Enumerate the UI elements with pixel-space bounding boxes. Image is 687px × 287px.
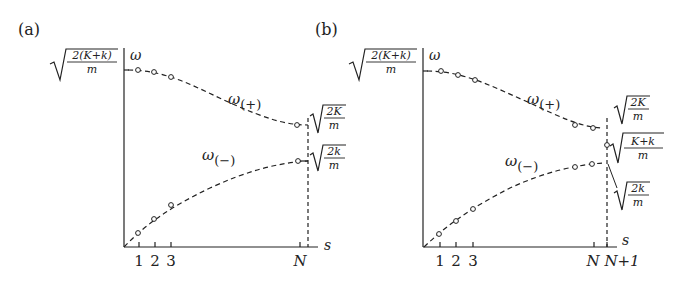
panel-b-label: (b) — [315, 20, 338, 39]
panel-b-right-num-2: K+k — [630, 135, 655, 148]
panel-a-upper-branch — [128, 70, 308, 125]
panel-a-right-num-2: 2k — [326, 145, 341, 158]
panel-a-right-den-1: m — [329, 119, 339, 132]
panel-a-right-den-2: m — [329, 159, 339, 172]
panel-a-y-top-num: 2(K+k) — [71, 49, 112, 62]
panel-a-lower-label: ω(−) — [202, 146, 235, 168]
panel-a-upper-label: ω(+) — [228, 90, 261, 112]
panel-b-y-axis-label: ω — [429, 47, 441, 63]
dispersion-diagram: (a) 2(K+k) m ω ω(+) ω(−) 2K m 2k m s 1 2… — [0, 0, 687, 287]
panel-a-tick-3: 3 — [166, 252, 176, 270]
panel-b-right-den-2: m — [638, 149, 648, 162]
panel-a-y-axis-label: ω — [130, 47, 142, 63]
panel-b-axes — [423, 48, 617, 247]
panel-b-right-den-3: m — [633, 196, 643, 209]
panel-a-tick-n: N — [292, 252, 307, 270]
panel-b-lower-branch — [424, 163, 603, 247]
panel-b-x-axis-label: s — [622, 232, 629, 248]
panel-b-upper-label: ω(+) — [527, 90, 560, 112]
panel-a-tick-1: 1 — [134, 252, 144, 270]
panel-b-tick-n: N — [585, 252, 600, 270]
panel-b-tick-3: 3 — [468, 252, 478, 270]
panel-b-tick-n-plus-1: N+1 — [603, 252, 639, 270]
panel-a-tick-2: 2 — [150, 252, 160, 270]
panel-a-x-axis-label: s — [324, 237, 331, 253]
panel-a-y-top-den: m — [87, 63, 97, 76]
panel-b-y-top-num: 2(K+k) — [370, 49, 411, 62]
panel-b-right-num-3: 2k — [630, 182, 645, 195]
panel-b-lower-label: ω(−) — [505, 152, 538, 174]
panel-a-label: (a) — [18, 20, 40, 39]
panel-b-y-top-den: m — [386, 63, 396, 76]
panel-b-upper-branch — [427, 71, 603, 128]
panel-b-tick-1: 1 — [435, 252, 445, 270]
panel-b-right-num-1: 2K — [629, 96, 646, 109]
panel-a-right-num-1: 2K — [325, 105, 342, 118]
panel-b-right-den-1: m — [633, 110, 643, 123]
panel-a-lower-branch — [124, 161, 308, 247]
panel-b-tick-2: 2 — [451, 252, 461, 270]
